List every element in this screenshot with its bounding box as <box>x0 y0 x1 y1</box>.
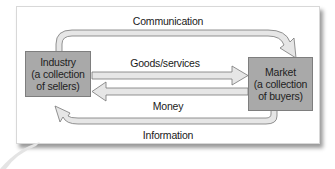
market-label-line3: of buyers) <box>258 90 303 102</box>
industry-node: Industry (a collection of sellers) <box>25 51 91 97</box>
industry-label-line2: (a collection <box>31 68 84 80</box>
money-arrow <box>92 82 248 101</box>
market-label-line2: (a collection <box>254 78 307 90</box>
money-label: Money <box>153 100 184 112</box>
market-node: Market (a collection of buyers) <box>248 57 313 111</box>
industry-label-line1: Industry <box>40 56 76 68</box>
page-curl-decoration <box>0 142 40 169</box>
communication-label: Communication <box>133 15 203 27</box>
market-label-line1: Market <box>265 66 296 78</box>
industry-label-line3: of sellers) <box>36 80 79 92</box>
information-label: Information <box>143 129 193 141</box>
communication-arrow <box>56 30 296 58</box>
goods-services-label: Goods/services <box>130 57 200 69</box>
